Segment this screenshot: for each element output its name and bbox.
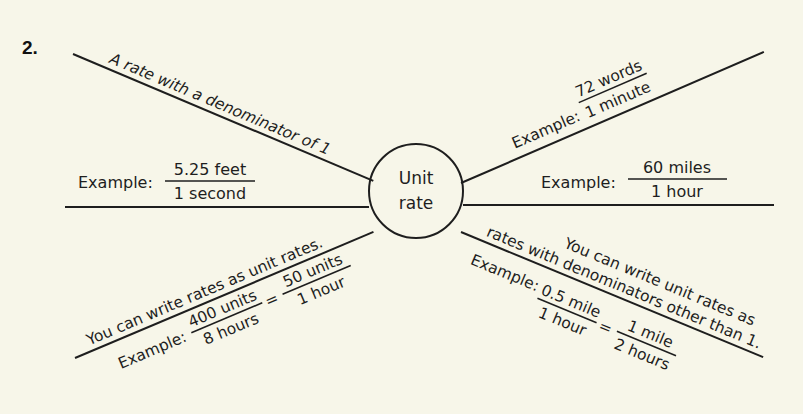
branch-rates-as-unit-rates: You can write rates as unit rates. Examp… bbox=[67, 214, 390, 398]
example-label: Example: bbox=[115, 328, 189, 373]
center-label-line1: Unit bbox=[399, 168, 434, 188]
center-node: Unit rate bbox=[369, 144, 463, 238]
lower-right-diagonal-line bbox=[461, 232, 763, 357]
center-circle bbox=[369, 144, 463, 238]
equals-sign: = bbox=[262, 289, 281, 311]
center-label-line2: rate bbox=[399, 193, 434, 213]
fraction-numerator: 60 miles bbox=[643, 158, 711, 177]
unit-rate-concept-map: 2. Unit rate Example: 5.25 feet 1 second… bbox=[0, 0, 803, 414]
concept-map-canvas: 2. Unit rate Example: 5.25 feet 1 second… bbox=[0, 0, 803, 414]
example-right: Example: 60 miles 1 hour bbox=[541, 158, 727, 201]
equals-sign: = bbox=[596, 317, 615, 339]
example-label: Example: bbox=[78, 173, 153, 192]
branch-other-denominators: You can write unit rates as rates with d… bbox=[441, 196, 778, 406]
fraction-denominator: 1 hour bbox=[651, 182, 703, 201]
example-label: Example: bbox=[541, 173, 616, 192]
definition-text: A rate with a denominator of 1 bbox=[106, 49, 333, 159]
example-left: Example: 5.25 feet 1 second bbox=[78, 160, 255, 203]
fraction-numerator: 5.25 feet bbox=[174, 160, 246, 179]
problem-number: 2. bbox=[22, 37, 38, 58]
branch-example-upper-right: Example: 72 words 1 minute bbox=[443, 10, 764, 183]
fraction-denominator: 1 second bbox=[174, 184, 246, 203]
